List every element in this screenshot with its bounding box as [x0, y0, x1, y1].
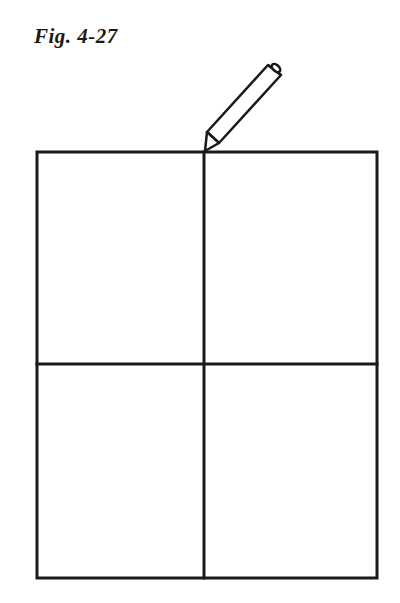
pencil-icon — [205, 62, 282, 151]
quadrant-diagram — [0, 0, 400, 603]
